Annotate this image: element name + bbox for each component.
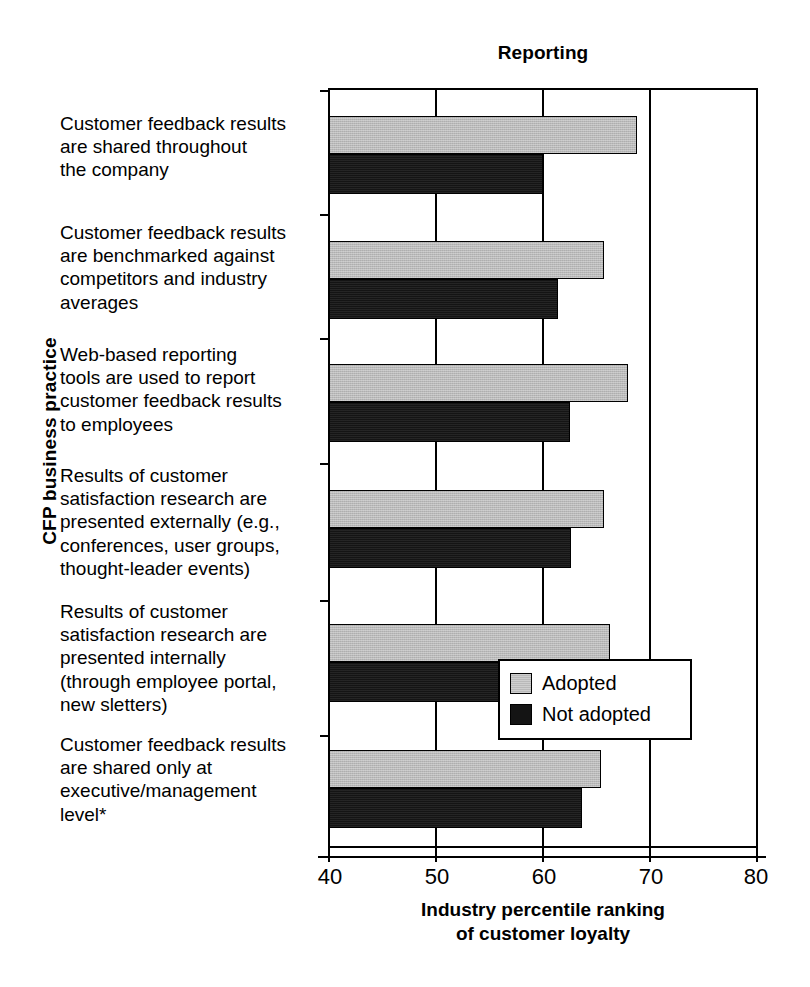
- x-axis-tick: [649, 848, 651, 862]
- category-label-line: averages: [60, 291, 320, 314]
- category-tick: [320, 735, 330, 737]
- bar-adopted-2: [330, 241, 604, 279]
- category-label-line: satisfaction research are: [60, 487, 320, 510]
- x-axis-tick-label-80: 80: [726, 864, 786, 890]
- category-tick: [320, 90, 330, 92]
- x-axis-tick: [542, 848, 544, 862]
- x-axis-label-line: Industry percentile ranking: [328, 898, 758, 922]
- bar-group-3: [330, 364, 756, 454]
- category-tick: [320, 214, 330, 216]
- y-axis-label: CFP business practice: [39, 311, 61, 571]
- category-label-line: conferences, user groups,: [60, 534, 320, 557]
- category-label-line: presented internally: [60, 646, 320, 669]
- x-axis-tick-label-60: 60: [514, 864, 574, 890]
- category-label-4: Results of customer satisfaction researc…: [60, 464, 320, 580]
- category-label-line: Customer feedback results: [60, 221, 320, 244]
- bar-adopted-4: [330, 490, 604, 528]
- category-label-line: to employees: [60, 413, 320, 436]
- category-label-5: Results of customer satisfaction researc…: [60, 600, 320, 716]
- bar-not-adopted-3: [330, 402, 570, 442]
- legend-item-not-adopted: Not adopted: [510, 699, 680, 730]
- category-label-6: Customer feedback results are shared onl…: [60, 733, 320, 826]
- x-axis-label: Industry percentile ranking of customer …: [328, 898, 758, 947]
- category-tick: [320, 463, 330, 465]
- category-label-line: are benchmarked against: [60, 244, 320, 267]
- category-label-line: presented externally (e.g.,: [60, 510, 320, 533]
- bar-adopted-1: [330, 116, 637, 154]
- chart-title: Reporting: [328, 42, 758, 64]
- x-axis-tick: [756, 848, 758, 862]
- category-label-line: new sletters): [60, 693, 320, 716]
- x-axis-tick-label-40: 40: [300, 864, 360, 890]
- bar-group-1: [330, 116, 756, 206]
- bar-adopted-5: [330, 624, 610, 662]
- category-label-line: competitors and industry: [60, 267, 320, 290]
- category-label-line: Customer feedback results: [60, 112, 320, 135]
- chart-legend: Adopted Not adopted: [498, 659, 692, 740]
- x-axis-tick: [435, 848, 437, 862]
- category-label-line: satisfaction research are: [60, 623, 320, 646]
- x-axis-label-line: of customer loyalty: [328, 922, 758, 946]
- category-label-line: Results of customer: [60, 464, 320, 487]
- category-label-line: are shared throughout: [60, 135, 320, 158]
- bar-not-adopted-2: [330, 279, 558, 319]
- bar-group-2: [330, 241, 756, 331]
- bar-not-adopted-1: [330, 154, 543, 194]
- category-tick: [320, 338, 330, 340]
- legend-swatch-adopted-icon: [510, 673, 532, 694]
- bar-adopted-3: [330, 364, 628, 402]
- legend-item-adopted: Adopted: [510, 668, 680, 699]
- category-label-line: thought-leader events): [60, 557, 320, 580]
- category-label-line: are shared only at: [60, 756, 320, 779]
- x-axis-tick-label-70: 70: [621, 864, 681, 890]
- legend-label-not-adopted: Not adopted: [542, 703, 651, 726]
- bar-group-6: [330, 750, 756, 840]
- category-label-line: level*: [60, 803, 320, 826]
- category-tick: [320, 600, 330, 602]
- category-label-line: Web-based reporting: [60, 343, 320, 366]
- category-label-line: the company: [60, 158, 320, 181]
- category-label-line: (through employee portal,: [60, 670, 320, 693]
- category-label-line: Customer feedback results: [60, 733, 320, 756]
- bar-not-adopted-6: [330, 788, 582, 828]
- category-label-1: Customer feedback results are shared thr…: [60, 112, 320, 182]
- legend-label-adopted: Adopted: [542, 672, 617, 695]
- bar-group-4: [330, 490, 756, 580]
- legend-swatch-not-adopted-icon: [510, 704, 532, 725]
- chart-figure: Reporting CFP business practice Customer…: [0, 0, 810, 987]
- category-label-3: Web-based reporting tools are used to re…: [60, 343, 320, 436]
- bar-adopted-6: [330, 750, 601, 788]
- x-axis-tick-label-50: 50: [407, 864, 467, 890]
- category-label-2: Customer feedback results are benchmarke…: [60, 221, 320, 314]
- category-label-line: tools are used to report: [60, 366, 320, 389]
- category-label-line: customer feedback results: [60, 389, 320, 412]
- category-label-line: Results of customer: [60, 600, 320, 623]
- category-label-line: executive/management: [60, 779, 320, 802]
- bar-not-adopted-4: [330, 528, 571, 568]
- x-axis-tick: [328, 848, 330, 862]
